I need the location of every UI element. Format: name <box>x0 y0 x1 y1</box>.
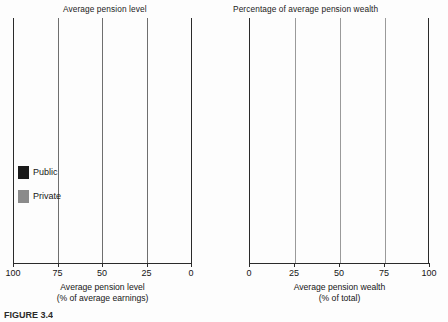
right-gridline-50 <box>340 18 341 263</box>
right-tick-50 <box>339 263 340 267</box>
left-panel-title: Average pension level <box>63 4 147 14</box>
left-gridline-50 <box>102 18 103 263</box>
left-gridline-100 <box>13 18 14 263</box>
right-plot-area <box>249 18 429 263</box>
right-tick-label-0: 0 <box>246 268 251 278</box>
left-tick-100 <box>13 263 14 267</box>
left-tick-75 <box>58 263 59 267</box>
right-tick-label-100: 100 <box>421 268 436 278</box>
left-tick-label-50: 50 <box>97 268 107 278</box>
left-axis-caption: Average pension level (% of average earn… <box>13 282 192 303</box>
right-axis-caption-line2: (% of total) <box>249 293 430 304</box>
left-plot-area <box>13 18 191 263</box>
left-tick-label-75: 75 <box>52 268 62 278</box>
right-tick-label-50: 50 <box>334 268 344 278</box>
left-tick-label-0: 0 <box>188 268 193 278</box>
legend-label-public: Public <box>33 167 58 177</box>
right-gridline-75 <box>385 18 386 263</box>
figure-chart: Average pension level Percentage of aver… <box>0 0 448 322</box>
left-tick-50 <box>102 263 103 267</box>
left-gridline-75 <box>58 18 59 263</box>
right-tick-100 <box>429 263 430 267</box>
figure-caption: FIGURE 3.4 <box>4 310 53 322</box>
right-tick-0 <box>249 263 250 267</box>
right-tick-75 <box>384 263 385 267</box>
left-gridline-0 <box>191 18 192 263</box>
right-axis-caption: Average pension wealth (% of total) <box>249 282 430 303</box>
right-tick-label-25: 25 <box>289 268 299 278</box>
left-gridline-25 <box>147 18 148 263</box>
legend-label-private: Private <box>33 191 61 201</box>
left-tick-label-100: 100 <box>5 268 20 278</box>
right-gridline-25 <box>295 18 296 263</box>
right-panel-title: Percentage of average pension wealth <box>233 4 378 14</box>
right-tick-25 <box>294 263 295 267</box>
legend-swatch-public <box>18 166 29 179</box>
left-tick-0 <box>191 263 192 267</box>
right-axis-caption-line1: Average pension wealth <box>249 282 430 293</box>
left-axis-caption-line1: Average pension level <box>13 282 192 293</box>
legend-swatch-private <box>18 190 29 203</box>
left-axis-caption-line2: (% of average earnings) <box>13 293 192 304</box>
right-tick-label-75: 75 <box>379 268 389 278</box>
left-tick-label-25: 25 <box>141 268 151 278</box>
left-tick-25 <box>147 263 148 267</box>
